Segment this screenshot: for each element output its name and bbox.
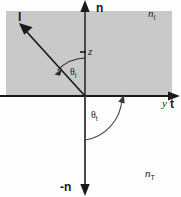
lower-index-subscript: T <box>151 174 155 181</box>
theta-transmitted-subscript: t <box>96 115 98 122</box>
normal-up-arrowhead <box>80 0 89 12</box>
normal-down-arrowhead <box>80 184 89 196</box>
lower-medium-index-label: nT <box>145 168 155 181</box>
normal-up-label: n <box>96 2 103 14</box>
theta-transmitted-label: θt <box>91 110 98 123</box>
normal-down-label: -n <box>60 181 71 193</box>
theta-incident-label: θI <box>70 67 77 80</box>
upper-index-subscript: I <box>154 14 156 21</box>
tangent-vector-label: t <box>170 98 174 110</box>
z-axis-label: z <box>88 46 92 57</box>
upper-medium-index-label: nI <box>148 8 155 21</box>
theta-incident-subscript: I <box>75 72 77 79</box>
incident-vector-label: I <box>18 11 21 23</box>
y-axis-label: y <box>162 98 167 109</box>
optics-interface-diagram: n -n I z y t θI θt nI nT <box>0 0 181 197</box>
